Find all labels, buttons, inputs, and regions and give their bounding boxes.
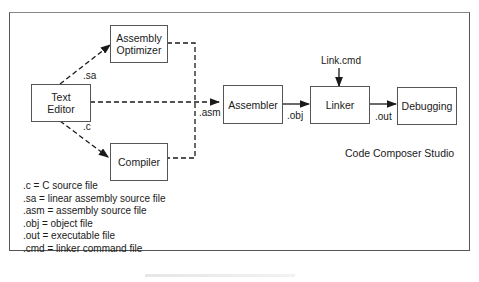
node-linker-label: Linker — [326, 99, 355, 111]
faded-caption — [145, 274, 295, 277]
node-text-editor: Text Editor — [31, 84, 91, 122]
node-text-editor-line1: Text — [51, 91, 70, 103]
legend-item: .sa = linear assembly source file — [23, 193, 166, 206]
node-link-cmd: Link.cmd — [321, 55, 361, 66]
legend-item: .cmd = linker command file — [23, 243, 166, 256]
node-assembly-optimizer-line1: Assembly — [116, 32, 162, 44]
node-assembly-optimizer-line2: Optimizer — [117, 44, 162, 56]
node-debugging: Debugging — [397, 87, 457, 125]
edge-bus — [167, 43, 195, 158]
node-linker: Linker — [310, 86, 370, 124]
node-text-editor-line2: Editor — [47, 103, 74, 115]
edge-label-obj: .obj — [287, 110, 303, 121]
edge-label-c: .c — [83, 121, 91, 132]
node-compiler: Compiler — [110, 143, 168, 181]
legend-item: .asm = assembly source file — [23, 205, 166, 218]
legend: .c = C source file .sa = linear assembly… — [23, 180, 166, 255]
legend-item: .obj = object file — [23, 218, 166, 231]
node-compiler-label: Compiler — [118, 156, 160, 168]
node-debugging-label: Debugging — [402, 100, 453, 112]
node-assembly-optimizer: Assembly Optimizer — [110, 25, 168, 63]
node-assembler-label: Assembler — [228, 99, 278, 111]
edge-label-sa: .sa — [83, 70, 96, 81]
node-assembler: Assembler — [223, 85, 283, 124]
edge-label-asm: .asm — [199, 107, 221, 118]
edge-label-out: .out — [375, 111, 392, 122]
legend-item: .out = executable file — [23, 230, 166, 243]
diagram-title: Code Composer Studio — [345, 147, 454, 159]
legend-item: .c = C source file — [23, 180, 166, 193]
